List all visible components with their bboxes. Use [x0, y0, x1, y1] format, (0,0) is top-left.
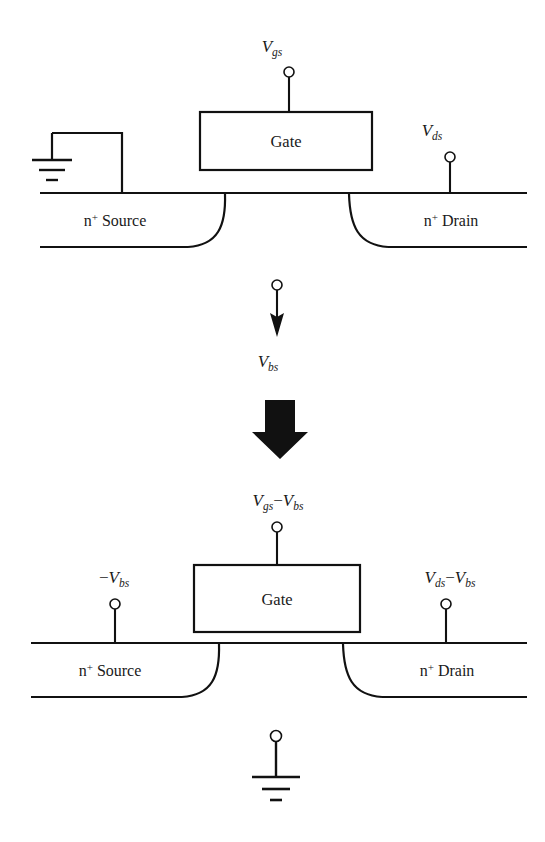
top-drain-terminal-node[interactable]	[445, 152, 455, 162]
bottom-drain-terminal-label: Vds−Vbs	[425, 568, 476, 589]
bottom-source-region-label: n+ Source	[79, 661, 142, 679]
bottom-source-terminal-node[interactable]	[110, 599, 120, 609]
body-terminal-node[interactable]	[272, 280, 282, 290]
top-drain-region-label: n+ Drain	[424, 211, 479, 229]
top-source-region-label: n+ Source	[84, 211, 147, 229]
bottom-body-terminal-node[interactable]	[271, 731, 282, 742]
top-drain-terminal-label: Vds	[422, 121, 443, 142]
bottom-device-group: Vgs−Vbs Gate −Vbs Vds−Vbs	[31, 491, 527, 800]
mosfet-transformation-diagram: Vgs Gate Vds	[0, 0, 545, 842]
top-device-group: Vgs Gate Vds	[32, 37, 527, 247]
top-gate-box-label: Gate	[270, 132, 301, 151]
top-gate-terminal-label: Vgs	[262, 37, 283, 59]
bottom-source-terminal-label: −Vbs	[99, 568, 130, 589]
bottom-gate-terminal-node[interactable]	[272, 522, 282, 532]
top-ground-connector	[52, 133, 122, 192]
transition-group: Vbs	[252, 280, 308, 459]
transform-block-arrow-icon	[252, 400, 308, 459]
figure-root: Vgs Gate Vds	[0, 0, 545, 842]
bottom-gate-box-label: Gate	[261, 590, 292, 609]
top-source-junction-curve	[188, 194, 225, 247]
top-gate-terminal-node[interactable]	[284, 67, 294, 77]
bottom-drain-region-label: n+ Drain	[420, 661, 475, 679]
body-terminal-label: Vbs	[258, 352, 279, 373]
bottom-drain-junction-curve	[343, 644, 382, 697]
bottom-gate-terminal-label: Vgs−Vbs	[253, 491, 304, 513]
bottom-source-junction-curve	[182, 644, 219, 697]
top-drain-junction-curve	[349, 194, 388, 247]
bottom-drain-terminal-node[interactable]	[441, 599, 451, 609]
